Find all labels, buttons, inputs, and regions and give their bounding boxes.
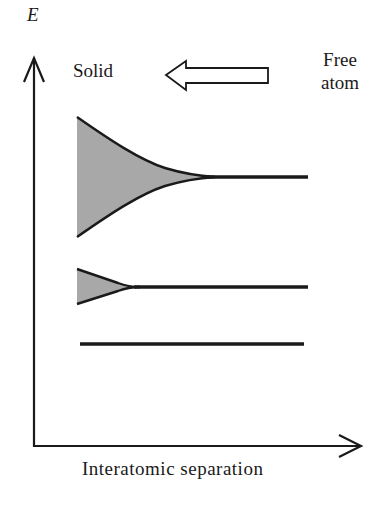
x-axis bbox=[33, 435, 361, 457]
free-atom-label-line1: Free bbox=[314, 48, 366, 71]
y-axis bbox=[24, 58, 44, 447]
y-axis-label: E bbox=[27, 4, 39, 26]
hollow-left-arrow-icon bbox=[166, 61, 268, 90]
x-axis-label: Interatomic separation bbox=[82, 458, 263, 480]
solid-label: Solid bbox=[73, 60, 113, 82]
free-atom-label: Free atom bbox=[314, 48, 366, 94]
middle-energy-band bbox=[77, 269, 308, 304]
upper-energy-band bbox=[77, 117, 308, 237]
free-atom-label-line2: atom bbox=[314, 71, 366, 94]
